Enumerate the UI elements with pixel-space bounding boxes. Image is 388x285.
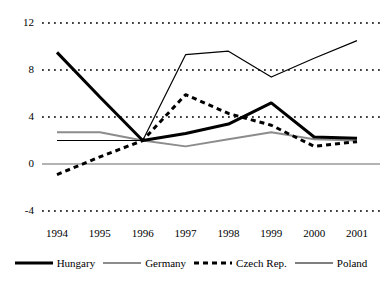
y-tick-label: 8 <box>8 64 34 75</box>
legend-entry: Poland <box>294 257 368 269</box>
x-tick-label: 1998 <box>208 228 248 239</box>
x-tick-label: 2001 <box>337 228 377 239</box>
legend-swatch <box>193 258 233 268</box>
legend-label: Hungary <box>57 257 96 269</box>
y-tick-label: -4 <box>8 205 34 216</box>
line-chart: 12840-4 19941995199619971998199920002001… <box>0 0 388 285</box>
x-tick-label: 1996 <box>123 228 163 239</box>
legend-swatch <box>14 258 54 268</box>
legend-swatch <box>294 258 334 268</box>
plot-area <box>0 0 388 285</box>
y-tick-label: 12 <box>8 17 34 28</box>
legend-entry: Germany <box>102 257 186 269</box>
x-tick-label: 1997 <box>166 228 206 239</box>
series-lines <box>57 41 357 175</box>
y-tick-label: 4 <box>8 111 34 122</box>
legend-entry: Hungary <box>14 257 96 269</box>
x-tick-label: 1995 <box>80 228 120 239</box>
x-tick-label: 1999 <box>251 228 291 239</box>
series-line-hungary <box>57 52 357 140</box>
legend-label: Czech Rep. <box>236 257 287 269</box>
legend-swatch <box>102 258 142 268</box>
legend-label: Germany <box>145 257 186 269</box>
chart-legend: HungaryGermanyCzech Rep.Poland <box>0 252 388 274</box>
legend-entry: Czech Rep. <box>193 257 287 269</box>
x-tick-label: 2000 <box>294 228 334 239</box>
y-tick-label: 0 <box>8 158 34 169</box>
series-line-poland <box>57 41 357 141</box>
x-tick-label: 1994 <box>37 228 77 239</box>
legend-label: Poland <box>337 257 368 269</box>
gridlines <box>42 23 380 211</box>
